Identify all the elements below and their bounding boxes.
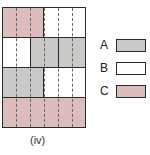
solid-divider-r2b — [58, 37, 59, 68]
figure-caption: (iv) — [30, 134, 45, 146]
cell-r1-c1 — [2, 7, 44, 38]
solid-divider-r3 — [43, 67, 44, 98]
legend-label-a: A — [100, 38, 108, 53]
legend-label-c: C — [100, 84, 109, 99]
dashed-line-1 — [16, 8, 17, 127]
cell-r3-c2 — [43, 67, 86, 98]
legend-swatch-c — [116, 85, 146, 98]
legend-label-b: B — [100, 61, 108, 76]
dashed-line-3 — [44, 8, 45, 127]
solid-divider-r2a — [30, 37, 31, 68]
dashed-line-5 — [72, 8, 73, 127]
cell-r1-c2 — [43, 7, 86, 38]
legend-swatch-b — [116, 62, 146, 75]
cell-r3-c1 — [2, 67, 44, 98]
fraction-grid — [2, 7, 86, 128]
solid-divider-r1 — [43, 7, 44, 38]
legend-swatch-a — [116, 39, 146, 52]
